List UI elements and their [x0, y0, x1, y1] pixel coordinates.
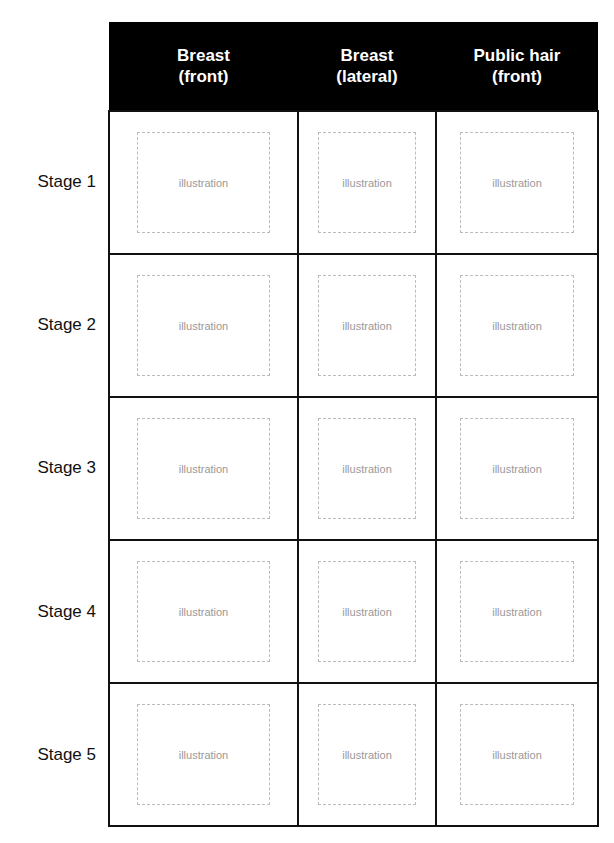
- cell: illustration: [109, 683, 298, 826]
- stage-label: Stage 5: [0, 684, 100, 827]
- cell: illustration: [436, 397, 598, 540]
- stage-label: Stage 3: [0, 397, 100, 540]
- header-row: Breast(front) Breast(lateral) Public hai…: [109, 22, 598, 111]
- table-row: illustrationillustrationillustration: [109, 254, 598, 397]
- tanner-stage-figure: Stage 1 Stage 2 Stage 3 Stage 4 Stage 5 …: [0, 0, 614, 843]
- header-col-2: Breast(lateral): [298, 22, 436, 111]
- table-row: illustrationillustrationillustration: [109, 111, 598, 254]
- header-col-1: Breast(front): [109, 22, 298, 111]
- cell: illustration: [109, 540, 298, 683]
- stage-labels: Stage 1 Stage 2 Stage 3 Stage 4 Stage 5: [0, 110, 100, 827]
- header-col-3: Public hair(front): [436, 22, 598, 111]
- cell: illustration: [436, 111, 598, 254]
- table-row: illustrationillustrationillustration: [109, 397, 598, 540]
- stage-label: Stage 1: [0, 110, 100, 253]
- table-row: illustrationillustrationillustration: [109, 540, 598, 683]
- cell: illustration: [109, 111, 298, 254]
- stage-table: Breast(front) Breast(lateral) Public hai…: [108, 22, 599, 827]
- cell: illustration: [436, 540, 598, 683]
- cell: illustration: [298, 254, 436, 397]
- cell: illustration: [109, 397, 298, 540]
- cell: illustration: [298, 683, 436, 826]
- cell: illustration: [298, 397, 436, 540]
- cell: illustration: [298, 540, 436, 683]
- cell: illustration: [298, 111, 436, 254]
- cell: illustration: [109, 254, 298, 397]
- cell: illustration: [436, 683, 598, 826]
- stage-label: Stage 4: [0, 540, 100, 683]
- cell: illustration: [436, 254, 598, 397]
- table-row: illustrationillustrationillustration: [109, 683, 598, 826]
- stage-label: Stage 2: [0, 253, 100, 396]
